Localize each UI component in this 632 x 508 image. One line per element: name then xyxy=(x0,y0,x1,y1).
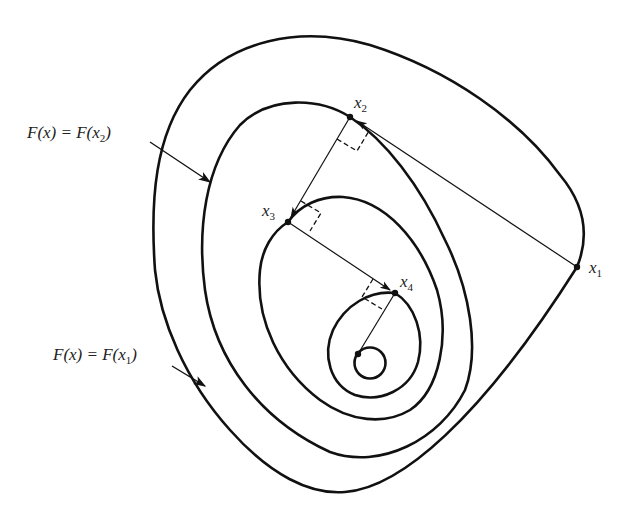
contour-level-x1 xyxy=(153,36,584,492)
label-x3: x3 xyxy=(261,201,276,222)
step-x3-to-x4 xyxy=(288,222,390,290)
contour-level-x4 xyxy=(328,293,420,398)
step-x2-to-x3 xyxy=(291,117,350,217)
contour-level-x2 xyxy=(202,103,472,458)
steepest-descent-diagram: x1 x2 x3 x4 F(x) = F(x2) F(x) = F(x1) xyxy=(0,0,632,508)
level-label-x2: F(x) = F(x2) xyxy=(26,123,111,144)
point-x4 xyxy=(392,290,398,296)
level-pointer-x1 xyxy=(172,366,205,386)
point-x2 xyxy=(347,114,353,120)
label-x2: x2 xyxy=(353,93,367,114)
point-x1 xyxy=(574,264,580,270)
point-minimum xyxy=(355,351,361,357)
right-angle-mark-x2 xyxy=(337,131,369,151)
step-x1-to-x2 xyxy=(357,121,577,267)
level-label-x1: F(x) = F(x1) xyxy=(52,345,137,366)
label-x1: x1 xyxy=(588,258,602,279)
label-x4: x4 xyxy=(399,272,414,293)
step-x4-to-min xyxy=(358,293,395,354)
point-x3 xyxy=(285,219,291,225)
